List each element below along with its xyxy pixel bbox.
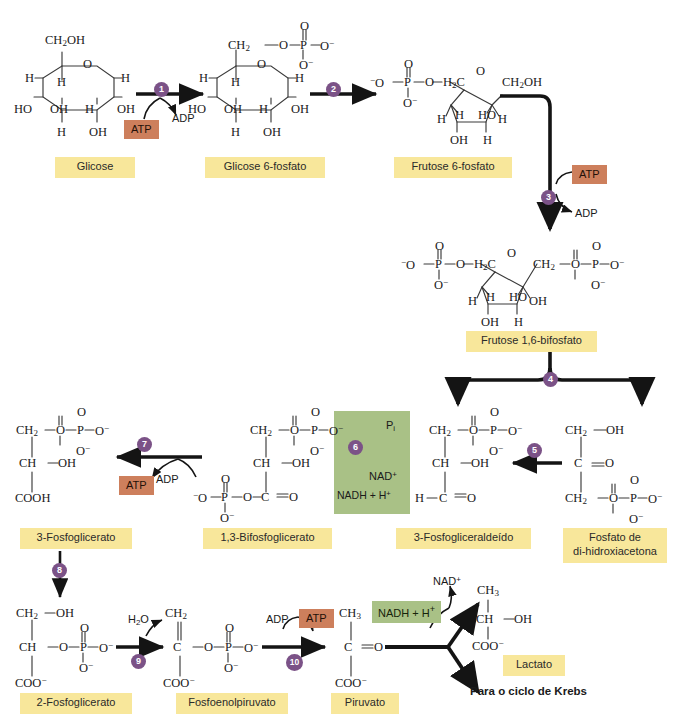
step-badge-9: 9: [131, 654, 146, 669]
fbp-h-inner-left: H: [486, 291, 495, 304]
dhap-label-line1: Fosfato de: [589, 531, 641, 543]
label-3-fosfogliceraldeido: 3-Fosfogliceraldeído: [396, 528, 531, 549]
label-piruvato: Piruvato: [331, 693, 399, 714]
bpg-o-ester: O: [290, 424, 299, 437]
pi-subscript: i: [393, 424, 395, 433]
g6p-o-double: O: [300, 20, 309, 33]
label-2-fosfoglicerato: 2-Fosfoglicerato: [20, 693, 132, 714]
label-frutose-6-fosfato: Frutose 6-fosfato: [394, 157, 512, 178]
pg2-ch: CH: [19, 641, 36, 654]
bpg-o-double-lower: O: [221, 473, 230, 486]
step-badge-10: 10: [286, 654, 303, 671]
label-frutose-16-bifosfato: Frutose 1,6-bifosfato: [466, 331, 597, 352]
fbp-p-left: P: [435, 258, 442, 271]
f6p-o-minus-lower: O−: [403, 96, 417, 109]
glycolysis-diagram: CH2OH H H H O HO OH H OH H OH Glicose 1 …: [0, 0, 676, 718]
step-badge-1: 1: [154, 82, 169, 97]
pg3-o-minus-lower: O−: [76, 444, 90, 457]
fbp-o-minus-lower-right: O−: [591, 278, 605, 291]
bpg-o-minus-lower-lower: O−: [220, 511, 234, 524]
krebs-output-label: Para o ciclo de Krebs: [470, 685, 587, 697]
g6p-oh-bottom: OH: [263, 126, 281, 139]
pg2-oh-top: OH: [56, 607, 74, 620]
g6p-h-upper-right: H: [295, 72, 304, 85]
f6p-o-double: O: [404, 58, 413, 71]
step-badge-6: 6: [348, 440, 363, 455]
g6p-h-bottom: H: [231, 126, 240, 139]
g3p-o-double: O: [490, 406, 499, 419]
lactate-ch3: CH3: [477, 584, 499, 598]
dhap-label-line2: di-hidroxiacetona: [573, 545, 657, 557]
bpg-o-minus-lower-upper: O−: [310, 444, 324, 457]
pg2-o-ester: O: [59, 641, 68, 654]
f6p-h-inner-left: H: [455, 109, 464, 122]
dhap-ch2-lower: CH2: [565, 492, 587, 506]
pyruvate-c: C: [344, 641, 352, 654]
fbp-h-left: H: [468, 295, 477, 308]
label-13-bifosfoglicerato: 1,3-Bifosfoglicerato: [203, 528, 332, 549]
pg2-o-double: O: [80, 622, 89, 635]
lactate-coo: COO−: [472, 639, 503, 652]
g6p-oh-2: OH: [224, 103, 242, 116]
g6p-o-minus-right: O−: [320, 39, 334, 52]
dhap-o-minus-right: O−: [648, 492, 662, 505]
atp-box-step3: ATP: [572, 165, 607, 184]
step-badge-3: 3: [541, 190, 556, 205]
pyruvate-o-keto: O: [374, 641, 383, 654]
glucose-h-upper-left: H: [25, 72, 34, 85]
pep-coo: COO−: [163, 676, 194, 689]
pyruvate-coo: COO−: [335, 676, 366, 689]
nad-plus-label: NAD+: [369, 470, 397, 482]
f6p-ring-oxygen: O: [476, 65, 485, 78]
atp-box-step7: ATP: [119, 476, 154, 495]
g6p-o-minus-lower: O−: [299, 58, 313, 71]
g6p-h-3: H: [259, 103, 268, 116]
pg3-o-minus-right: O−: [95, 424, 109, 437]
pg2-coo: COO−: [15, 676, 46, 689]
g3p-o-minus-right: O−: [508, 424, 522, 437]
pep-o-ester: O: [204, 641, 213, 654]
pi-label: Pi: [386, 419, 395, 433]
label-glicose: Glicose: [55, 157, 135, 178]
pg3-o-double: O: [77, 406, 86, 419]
pyruvate-ch3: CH3: [339, 607, 361, 621]
f6p-h-right: H: [498, 113, 507, 126]
nadh-chip-lactate: NADH + H+: [372, 601, 441, 623]
step-badge-4: 4: [543, 372, 558, 387]
g6p-oh-1: OH: [291, 103, 309, 116]
bpg-o-acyl: O: [243, 491, 252, 504]
bpg-oh: OH: [292, 457, 310, 470]
bpg-o-minus-right-upper: O−: [329, 424, 343, 437]
pep-o-minus-right: O−: [244, 641, 258, 654]
glucose-ho: HO: [14, 103, 32, 116]
pg3-oh: OH: [58, 457, 76, 470]
label-3-fosfoglicerato: 3-Fosfoglicerato: [20, 528, 132, 549]
nad-plus-label-lactate: NAD+: [433, 575, 461, 587]
g3p-o-ester: O: [469, 424, 478, 437]
f6p-h2c: H2C: [443, 76, 465, 90]
fbp-oh-right: OH: [529, 295, 547, 308]
dhap-o-ester: O: [609, 492, 618, 505]
label-lactato: Lactato: [503, 655, 565, 676]
adp-label-step7: ADP: [156, 473, 179, 485]
bpg-c-acyl: C: [261, 491, 269, 504]
g3p-c-aldehyde: C: [439, 492, 447, 505]
g3p-ch: CH: [432, 457, 449, 470]
atp-box-step1: ATP: [124, 120, 159, 139]
fbp-o-minus-right: O−: [610, 258, 624, 271]
fbp-o-double-left: O: [435, 240, 444, 253]
step-badge-5: 5: [527, 443, 542, 458]
pep-o-minus-lower: O−: [224, 661, 238, 674]
pg2-o-minus-right: O−: [99, 641, 113, 654]
f6p-o-ester: O: [425, 76, 434, 89]
glucose-h-3: H: [85, 103, 94, 116]
pep-ch2: CH2: [165, 607, 187, 621]
g3p-p: P: [490, 424, 497, 437]
bpg-o-minus-left: −O: [193, 491, 207, 504]
dhap-p: P: [630, 492, 637, 505]
glucose-oh-1: OH: [117, 103, 135, 116]
lactate-ch: CH: [476, 613, 493, 626]
fbp-ch2: CH2: [533, 258, 555, 272]
g3p-ch2: CH2: [429, 424, 451, 438]
f6p-o-minus-left: −O: [370, 76, 384, 89]
